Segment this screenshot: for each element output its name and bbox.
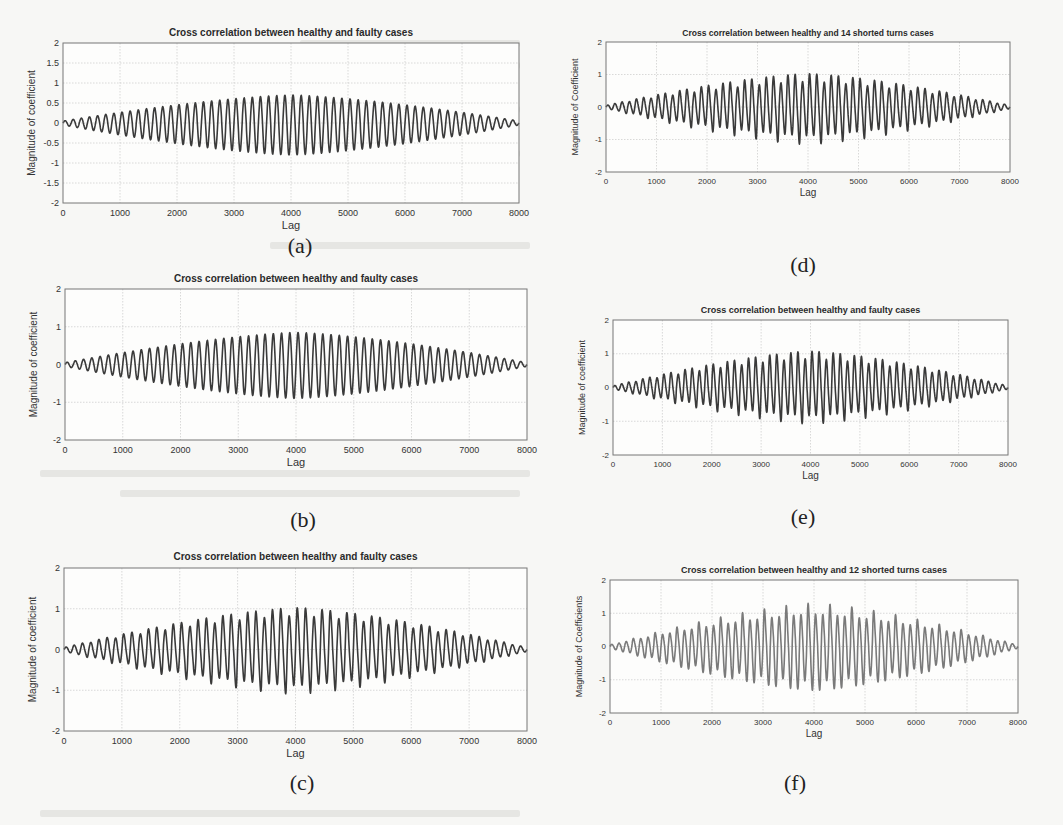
- svg-text:2000: 2000: [703, 460, 721, 469]
- svg-text:4000: 4000: [802, 460, 820, 469]
- svg-text:-1: -1: [602, 417, 610, 426]
- svg-text:0: 0: [611, 460, 616, 469]
- svg-text:7000: 7000: [958, 718, 976, 727]
- svg-text:1: 1: [598, 70, 603, 79]
- y-tick-labels: -2-1012: [602, 316, 610, 460]
- y-axis-label: Magnitude of coefficient: [28, 312, 39, 418]
- svg-text:8000: 8000: [999, 460, 1017, 469]
- caption-e: (e): [791, 504, 815, 530]
- svg-text:6000: 6000: [900, 460, 918, 469]
- x-tick-labels: 010002000300040005000600070008000: [62, 445, 537, 455]
- panel-b: 010002000300040005000600070008000-2-1012…: [0, 270, 530, 540]
- svg-text:7000: 7000: [950, 460, 968, 469]
- svg-text:2: 2: [54, 38, 59, 48]
- svg-text:6000: 6000: [395, 208, 415, 218]
- panel-c: 010002000300040005000600070008000-2-1012…: [0, 540, 530, 825]
- chart-title: Cross correlation between healthy and fa…: [701, 305, 921, 315]
- caption-b: (b): [290, 507, 316, 533]
- svg-text:4000: 4000: [285, 736, 305, 746]
- svg-text:1000: 1000: [110, 208, 130, 218]
- svg-text:4000: 4000: [799, 177, 817, 186]
- svg-text:0: 0: [54, 118, 59, 128]
- x-axis-label: Lag: [286, 747, 304, 759]
- svg-text:7000: 7000: [459, 445, 479, 455]
- svg-text:1000: 1000: [652, 718, 670, 727]
- chart-title: Cross correlation between healthy and fa…: [174, 551, 418, 562]
- svg-text:-1.5: -1.5: [43, 178, 59, 188]
- svg-text:5000: 5000: [851, 460, 869, 469]
- svg-text:-2: -2: [595, 168, 603, 177]
- svg-text:7000: 7000: [452, 208, 472, 218]
- y-tick-labels: -2-1012: [53, 284, 61, 445]
- chart-title: Cross correlation between healthy and 14…: [682, 28, 934, 38]
- svg-text:0: 0: [608, 718, 613, 727]
- x-axis-label: Lag: [287, 456, 305, 468]
- svg-text:2: 2: [56, 284, 61, 294]
- svg-text:2000: 2000: [167, 208, 187, 218]
- svg-text:0: 0: [61, 736, 66, 746]
- svg-text:-2: -2: [52, 726, 60, 736]
- panel-d: 010002000300040005000600070008000-2-1012…: [530, 0, 1063, 280]
- chart-b: 010002000300040005000600070008000-2-1012…: [0, 270, 530, 540]
- svg-text:6000: 6000: [401, 736, 421, 746]
- svg-text:1: 1: [54, 78, 59, 88]
- svg-text:7000: 7000: [951, 177, 969, 186]
- caption-c: (c): [290, 770, 314, 796]
- svg-text:5000: 5000: [856, 718, 874, 727]
- svg-text:6000: 6000: [900, 177, 918, 186]
- svg-text:4000: 4000: [805, 718, 823, 727]
- caption-f: (f): [784, 770, 806, 796]
- svg-text:-1: -1: [51, 158, 59, 168]
- svg-text:5000: 5000: [343, 736, 363, 746]
- svg-text:6000: 6000: [401, 445, 421, 455]
- x-axis-label: Lag: [802, 470, 819, 481]
- svg-text:3000: 3000: [749, 177, 767, 186]
- svg-text:2000: 2000: [703, 718, 721, 727]
- svg-text:-2: -2: [599, 709, 607, 718]
- x-axis-label: Lag: [800, 187, 817, 198]
- y-axis-label: Magnitude of coefficient: [577, 340, 587, 435]
- svg-text:2: 2: [602, 576, 607, 585]
- svg-text:8000: 8000: [509, 208, 529, 218]
- svg-text:0: 0: [602, 642, 607, 651]
- panel-a: 010002000300040005000600070008000-2-1.5-…: [0, 0, 530, 270]
- svg-text:1: 1: [56, 322, 61, 332]
- svg-text:4000: 4000: [286, 445, 306, 455]
- x-axis-label: Lag: [806, 728, 823, 739]
- x-axis-label: Lag: [282, 219, 300, 231]
- caption-d: (d): [790, 252, 816, 278]
- panel-e: 010002000300040005000600070008000-2-1012…: [530, 280, 1063, 550]
- y-tick-labels: -2-1012: [52, 563, 60, 736]
- svg-text:2000: 2000: [170, 445, 190, 455]
- svg-text:-1: -1: [599, 675, 607, 684]
- svg-text:1000: 1000: [653, 460, 671, 469]
- svg-text:-1: -1: [52, 685, 60, 695]
- svg-text:-2: -2: [53, 435, 61, 445]
- x-tick-labels: 010002000300040005000600070008000: [60, 208, 529, 218]
- chart-a: 010002000300040005000600070008000-2-1.5-…: [0, 0, 530, 270]
- svg-text:0: 0: [62, 445, 67, 455]
- x-tick-labels: 010002000300040005000600070008000: [611, 460, 1018, 469]
- x-tick-labels: 010002000300040005000600070008000: [604, 177, 1020, 186]
- svg-text:1: 1: [602, 609, 607, 618]
- svg-text:-0.5: -0.5: [43, 138, 59, 148]
- svg-text:2000: 2000: [698, 177, 716, 186]
- y-tick-labels: -2-1012: [599, 576, 607, 718]
- svg-text:2: 2: [55, 563, 60, 573]
- chart-d: 010002000300040005000600070008000-2-1012…: [530, 0, 1063, 280]
- svg-text:1000: 1000: [648, 177, 666, 186]
- svg-text:3000: 3000: [752, 460, 770, 469]
- y-axis-label: Magnitude of coefficient: [27, 597, 38, 703]
- x-tick-labels: 010002000300040005000600070008000: [608, 718, 1028, 727]
- svg-text:-2: -2: [602, 451, 610, 460]
- svg-text:8000: 8000: [1009, 718, 1027, 727]
- svg-text:1: 1: [55, 604, 60, 614]
- svg-text:6000: 6000: [907, 718, 925, 727]
- svg-text:1: 1: [605, 349, 610, 358]
- chart-title: Cross correlation between healthy and 12…: [681, 565, 947, 575]
- svg-text:8000: 8000: [1001, 177, 1019, 186]
- svg-text:4000: 4000: [281, 208, 301, 218]
- svg-text:2: 2: [605, 316, 610, 325]
- chart-c: 010002000300040005000600070008000-2-1012…: [0, 540, 530, 825]
- svg-text:2000: 2000: [170, 736, 190, 746]
